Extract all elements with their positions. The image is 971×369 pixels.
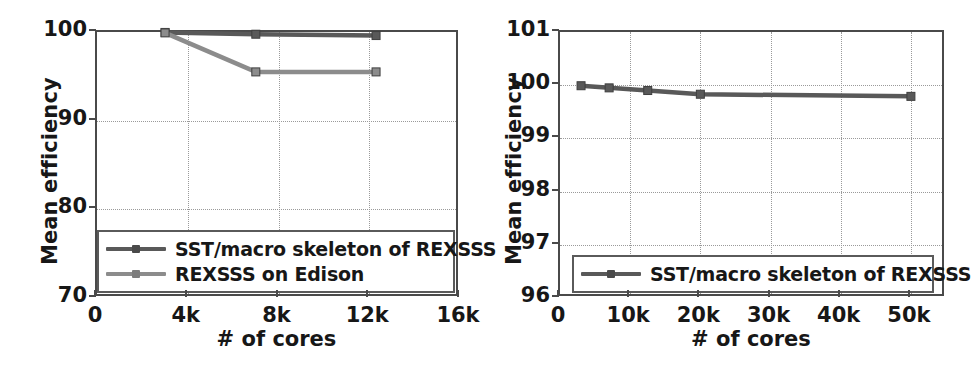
y-axis-tick-mark	[552, 242, 559, 244]
legend-line-swatch-icon	[106, 267, 166, 281]
data-point-marker	[161, 29, 169, 37]
x-axis-tick-mark	[557, 290, 559, 297]
data-point-marker	[372, 68, 380, 76]
y-axis-tick-label: 99	[521, 125, 550, 146]
data-point-marker	[644, 87, 652, 95]
data-series-line	[165, 32, 376, 35]
legend-item-label: REXSSS on Edison	[175, 263, 364, 285]
legend-line-swatch-icon	[106, 242, 166, 256]
x-axis-tick-mark	[768, 290, 770, 297]
x-axis-label-right: # of cores	[558, 327, 944, 351]
x-axis-tick-label: 4k	[146, 305, 226, 326]
legend-item: REXSSS on Edison	[106, 261, 446, 286]
data-series-line	[165, 33, 376, 72]
y-axis-tick-label: 80	[58, 196, 87, 217]
data-point-marker	[605, 84, 613, 92]
x-axis-tick-mark	[627, 290, 629, 297]
x-axis-tick-label: 0	[518, 305, 598, 326]
y-axis-tick-label: 97	[521, 232, 550, 253]
data-series-line	[581, 86, 911, 97]
legend-item: SST/macro skeleton of REXSSS	[106, 236, 446, 261]
x-axis-tick-label: 8k	[237, 305, 317, 326]
x-axis-tick-mark	[94, 290, 96, 297]
y-axis-tick-label: 98	[521, 179, 550, 200]
y-axis-tick-mark	[89, 118, 96, 120]
legend-right: SST/macro skeleton of REXSSS	[572, 255, 934, 293]
y-axis-tick-label: 100	[506, 72, 550, 93]
x-axis-label-left: # of cores	[95, 327, 458, 351]
data-point-marker	[252, 68, 260, 76]
y-axis-tick-label: 100	[43, 19, 87, 40]
figure-two-panel-line-charts: Mean efficiency # of cores SST/macro ske…	[0, 0, 971, 369]
y-axis-tick-label: 96	[521, 285, 550, 306]
x-axis-tick-label: 0	[55, 305, 135, 326]
x-axis-tick-mark	[697, 290, 699, 297]
x-axis-tick-mark	[838, 290, 840, 297]
x-axis-tick-label: 20k	[658, 305, 738, 326]
legend-item-label: SST/macro skeleton of REXSSS	[650, 263, 971, 285]
data-point-marker	[907, 92, 915, 100]
y-axis-tick-label: 101	[506, 19, 550, 40]
y-axis-tick-mark	[552, 29, 559, 31]
y-axis-tick-mark	[89, 29, 96, 31]
x-axis-tick-label: 50k	[869, 305, 949, 326]
legend-left: SST/macro skeleton of REXSSS REXSSS on E…	[97, 230, 455, 293]
x-axis-tick-label: 40k	[799, 305, 879, 326]
legend-item-label: SST/macro skeleton of REXSSS	[175, 238, 496, 260]
x-axis-tick-mark	[185, 290, 187, 297]
y-axis-tick-mark	[552, 82, 559, 84]
y-axis-tick-label: 70	[58, 285, 87, 306]
x-axis-tick-label: 10k	[588, 305, 668, 326]
x-axis-tick-mark	[276, 290, 278, 297]
data-point-marker	[696, 90, 704, 98]
chart-panel-right: Mean efficiency # of cores SST/macro ske…	[480, 0, 971, 369]
y-axis-tick-mark	[89, 206, 96, 208]
x-axis-tick-label: 30k	[729, 305, 809, 326]
y-axis-tick-mark	[552, 135, 559, 137]
chart-panel-left: Mean efficiency # of cores SST/macro ske…	[0, 0, 480, 369]
y-axis-tick-label: 90	[58, 108, 87, 129]
x-axis-tick-mark	[908, 290, 910, 297]
x-axis-tick-mark	[366, 290, 368, 297]
x-axis-tick-mark	[457, 290, 459, 297]
data-point-marker	[372, 32, 380, 40]
y-axis-tick-mark	[552, 189, 559, 191]
data-point-marker	[252, 30, 260, 38]
legend-item: SST/macro skeleton of REXSSS	[581, 261, 925, 286]
legend-line-swatch-icon	[581, 267, 641, 281]
data-point-marker	[577, 82, 585, 90]
x-axis-tick-label: 12k	[327, 305, 407, 326]
